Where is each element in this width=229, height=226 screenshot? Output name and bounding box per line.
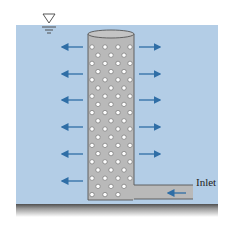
hole	[90, 45, 94, 49]
hole	[103, 176, 107, 180]
hole	[122, 119, 126, 123]
hole	[96, 151, 100, 155]
hole	[96, 53, 100, 57]
hole	[122, 151, 126, 155]
hole	[90, 110, 94, 114]
hole	[96, 86, 100, 90]
hole	[116, 78, 120, 82]
hole	[103, 160, 107, 164]
hole	[116, 110, 120, 114]
hole	[128, 160, 132, 164]
hole	[109, 184, 113, 188]
hole	[128, 61, 132, 65]
hole	[122, 168, 126, 172]
hole	[103, 78, 107, 82]
hole	[128, 176, 132, 180]
hole	[109, 69, 113, 73]
hole	[109, 86, 113, 90]
hole	[128, 127, 132, 131]
hole	[96, 184, 100, 188]
hole	[103, 61, 107, 65]
hole	[90, 143, 94, 147]
hole	[122, 102, 126, 106]
hole	[116, 61, 120, 65]
hole	[90, 176, 94, 180]
hole	[116, 45, 120, 49]
hole	[103, 192, 107, 196]
hole	[109, 102, 113, 106]
hole	[128, 94, 132, 98]
hole	[90, 61, 94, 65]
hole	[103, 127, 107, 131]
hole	[96, 69, 100, 73]
hole	[116, 192, 120, 196]
diagram-canvas	[0, 0, 229, 226]
hole	[109, 119, 113, 123]
hole	[90, 94, 94, 98]
hole	[96, 102, 100, 106]
hole	[103, 110, 107, 114]
hole	[90, 160, 94, 164]
hole	[103, 45, 107, 49]
hole	[96, 135, 100, 139]
hole	[96, 119, 100, 123]
inlet-pipe	[133, 185, 193, 199]
hole	[122, 53, 126, 57]
hole	[116, 127, 120, 131]
hole	[128, 110, 132, 114]
hole	[122, 184, 126, 188]
hole	[103, 143, 107, 147]
hole	[116, 160, 120, 164]
hole	[109, 151, 113, 155]
hole	[109, 168, 113, 172]
hole	[122, 69, 126, 73]
hole	[116, 176, 120, 180]
hole	[128, 45, 132, 49]
hole	[128, 78, 132, 82]
hole	[128, 143, 132, 147]
hole	[122, 135, 126, 139]
hole	[109, 135, 113, 139]
hole	[90, 127, 94, 131]
hole	[90, 192, 94, 196]
hole	[96, 168, 100, 172]
hole	[122, 86, 126, 90]
hole	[109, 53, 113, 57]
inlet-label: Inlet	[196, 176, 216, 188]
hole	[116, 143, 120, 147]
hole	[103, 94, 107, 98]
hole	[116, 94, 120, 98]
hole	[90, 78, 94, 82]
tank-floor	[16, 204, 218, 217]
